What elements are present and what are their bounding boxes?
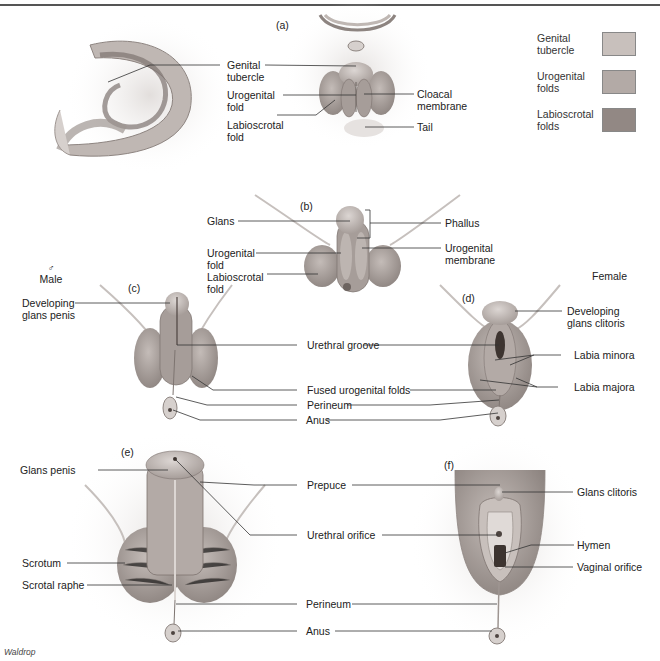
panel-label-c: (c) bbox=[128, 282, 140, 294]
panel-e-male-adult bbox=[65, 430, 285, 650]
label-scrotum: Scrotum bbox=[22, 557, 61, 569]
label-perineum-cd: Perineum bbox=[307, 399, 352, 411]
panel-b-ambisexual-stage bbox=[255, 195, 460, 292]
panel-label-f: (f) bbox=[444, 459, 454, 471]
label-urogenital-fold-a: Urogenitalfold bbox=[227, 89, 275, 113]
label-labioscrotal-fold-a: Labioscrotalfold bbox=[227, 119, 284, 143]
female-label: Female bbox=[592, 270, 627, 282]
label-glans-penis: Glans penis bbox=[20, 464, 75, 476]
panel-c-male-developing bbox=[100, 285, 232, 419]
label-perineum-ef: Perineum bbox=[306, 598, 351, 610]
label-urogenital-membrane: Urogenitalmembrane bbox=[445, 242, 495, 266]
illustrator-credit: Waldrop bbox=[4, 647, 36, 657]
label-genital-tubercle-a: Genitaltubercle bbox=[227, 59, 264, 83]
panel-a-indifferent-stage bbox=[282, 0, 432, 150]
label-vaginal-orifice: Vaginal orifice bbox=[577, 561, 642, 573]
label-anus-cd: Anus bbox=[306, 414, 330, 426]
label-glans-b: Glans bbox=[207, 215, 234, 227]
label-urogenital-fold-b: Urogenitalfold bbox=[207, 247, 255, 271]
legend-label-labioscrotal-folds: Labioscrotalfolds bbox=[537, 108, 594, 132]
legend-label-genital-tubercle: Genitaltubercle bbox=[537, 32, 574, 56]
legend-swatch-genital-tubercle bbox=[602, 32, 636, 56]
panel-label-e: (e) bbox=[121, 446, 134, 458]
panel-f-female-adult bbox=[410, 430, 590, 650]
label-urethral-groove: Urethral groove bbox=[307, 339, 379, 351]
label-developing-glans-penis: Developingglans penis bbox=[22, 297, 75, 321]
label-prepuce: Prepuce bbox=[307, 479, 346, 491]
male-label: Male bbox=[36, 273, 66, 285]
legend-swatch-labioscrotal-folds bbox=[602, 108, 636, 132]
illustration-canvas bbox=[0, 0, 660, 661]
panel-label-b: (b) bbox=[300, 200, 313, 212]
male-symbol-icon: ♂ bbox=[36, 264, 66, 273]
label-glans-clitoris: Glans clitoris bbox=[577, 486, 637, 498]
label-labia-majora: Labia majora bbox=[574, 381, 635, 393]
panel-label-d: (d) bbox=[462, 292, 475, 304]
embryo-sagittal-section bbox=[55, 15, 235, 175]
legend-label-urogenital-folds: Urogenitalfolds bbox=[537, 70, 585, 94]
label-developing-glans-clitoris: Developingglans clitoris bbox=[567, 305, 625, 329]
label-cloacal-membrane: Cloacalmembrane bbox=[417, 88, 467, 112]
label-fused-urogenital-folds: Fused urogenital folds bbox=[307, 384, 410, 396]
label-anus-ef: Anus bbox=[306, 625, 330, 637]
label-tail: Tail bbox=[417, 121, 433, 133]
label-scrotal-raphe: Scrotal raphe bbox=[22, 579, 84, 591]
male-heading: ♂ Male bbox=[36, 264, 66, 285]
label-labia-minora: Labia minora bbox=[574, 349, 635, 361]
label-labioscrotal-fold-b: Labioscrotalfold bbox=[207, 271, 264, 295]
panel-label-a: (a) bbox=[276, 19, 289, 31]
panel-d-female-developing bbox=[440, 285, 560, 426]
label-phallus: Phallus bbox=[445, 217, 479, 229]
legend-swatch-urogenital-folds bbox=[602, 70, 636, 94]
label-urethral-orifice: Urethral orifice bbox=[307, 529, 375, 541]
label-hymen: Hymen bbox=[577, 539, 610, 551]
